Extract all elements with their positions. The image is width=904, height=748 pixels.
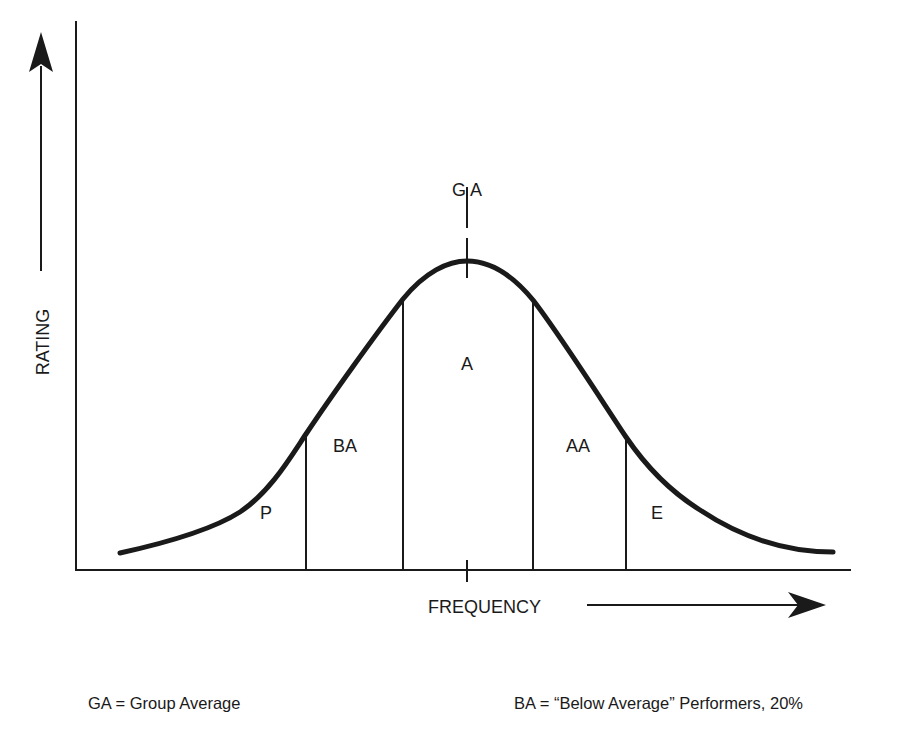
y-axis-label: RATING — [33, 309, 53, 376]
region-label-e: E — [651, 503, 663, 523]
legend-right: BA = “Below Average” Performers, 20% E =… — [514, 646, 803, 748]
x-axis-label: FREQUENCY — [428, 597, 541, 617]
bell-curve-diagram: G A P BA A AA E FREQUENCY RATING — [0, 0, 904, 748]
region-label-ba: BA — [333, 436, 357, 456]
region-label-a: A — [461, 354, 473, 374]
legend-item-ba: BA = “Below Average” Performers, 20% — [514, 692, 803, 715]
region-label-p: P — [260, 503, 272, 523]
bell-curve — [120, 261, 833, 553]
region-label-aa: AA — [566, 436, 590, 456]
frequency-arrow-icon — [587, 592, 826, 618]
legend-left: GA = Group Average A = “Average” Perform… — [88, 646, 379, 748]
legend-item-ga: GA = Group Average — [88, 692, 379, 715]
group-average-label: G A — [452, 180, 482, 200]
rating-arrow-icon — [29, 32, 53, 271]
